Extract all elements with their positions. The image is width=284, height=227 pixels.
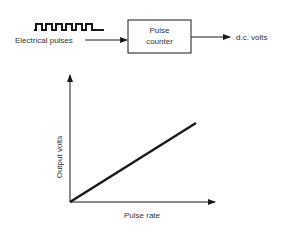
x-axis-label: Pulse rate — [124, 211, 161, 220]
box-label-line2: counter — [146, 37, 173, 46]
pulse-train-icon — [34, 24, 104, 30]
y-axis-label: Output volts — [55, 136, 64, 179]
box-label-line1: Pulse — [149, 26, 170, 35]
response-line — [70, 123, 196, 202]
pulse-counter-diagram: Electrical pulses Pulse counter d.c. vol… — [0, 0, 284, 227]
input-label: Electrical pulses — [15, 36, 73, 45]
output-label: d.c. volts — [236, 33, 268, 42]
